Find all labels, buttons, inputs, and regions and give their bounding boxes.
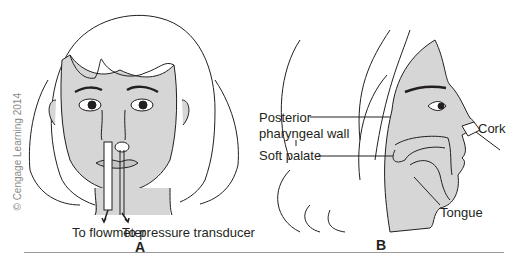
copyright-notice: © Cengage Learning 2014 [12,101,23,211]
label-tongue: Tongue [440,206,483,220]
label-posterior: Posterior [259,111,311,125]
label-soft-palate: Soft palate [259,149,321,163]
panel-label-b: B [376,237,386,253]
label-cork: Cork [478,122,505,136]
label-pharyngeal-wall: pharyngeal wall [259,127,349,141]
label-to-pressure-transducer: To pressure transducer [122,226,255,240]
illustration [0,0,508,258]
bottom-rule [24,252,504,253]
panel-a-face [29,15,238,222]
